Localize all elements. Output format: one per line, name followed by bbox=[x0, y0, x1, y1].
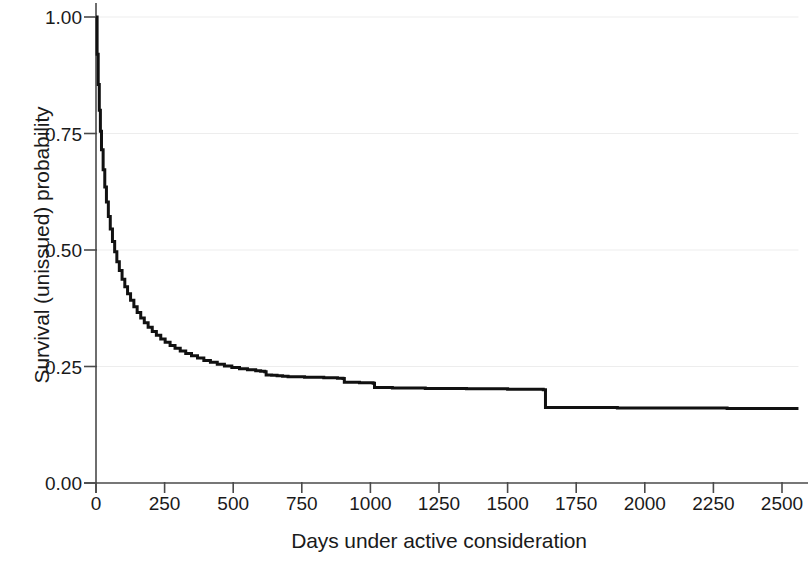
survival-series-group bbox=[96, 17, 798, 408]
survival-curve-plot bbox=[0, 0, 808, 562]
x-axis-title: Days under active consideration bbox=[96, 528, 782, 554]
x-tick-label: 2500 bbox=[737, 494, 808, 513]
x-axis-tick-labels: 02505007501000125015001750200022502500 bbox=[0, 494, 808, 520]
axis-lines-group bbox=[84, 3, 808, 493]
y-axis-title: Survival (unissued) probability bbox=[28, 0, 56, 495]
survival-chart-figure: 1.000.750.500.250.00 0250500750100012501… bbox=[0, 0, 808, 562]
survival-curve-line bbox=[96, 17, 798, 408]
tick-marks-group bbox=[84, 17, 782, 493]
gridlines-group bbox=[96, 17, 798, 367]
